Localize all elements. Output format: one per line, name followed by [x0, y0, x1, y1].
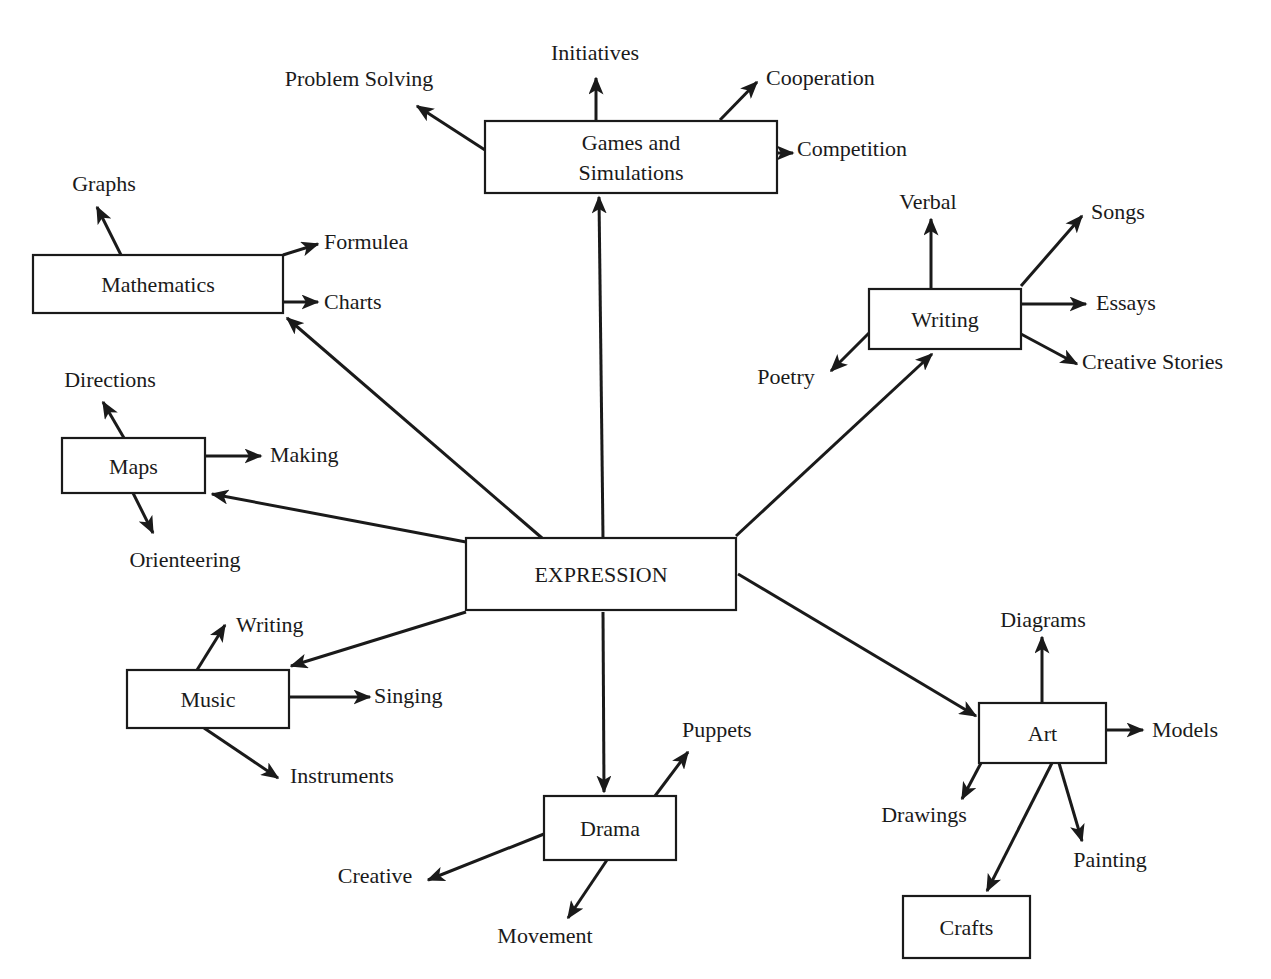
- arrow-connector: [599, 197, 603, 538]
- leaf-label: Orienteering: [129, 547, 240, 572]
- leaf-label: Graphs: [72, 171, 136, 196]
- arrow-connector: [603, 612, 604, 792]
- arrow-connector: [720, 82, 757, 120]
- arrow-connector: [655, 752, 688, 796]
- arrow-connector: [738, 574, 976, 716]
- leaf-label: Charts: [324, 289, 381, 314]
- center-label: EXPRESSION: [534, 562, 667, 587]
- leaf-label: Models: [1152, 717, 1218, 742]
- arrow-connector: [1021, 334, 1077, 364]
- leaf-label: Writing: [236, 612, 304, 637]
- leaf-label: Puppets: [682, 717, 752, 742]
- arrow-connector: [204, 728, 278, 778]
- arrow-connector: [212, 494, 466, 542]
- arrow-connector: [197, 625, 225, 670]
- node-games: Games andSimulations: [485, 121, 777, 193]
- concept-boxes: EXPRESSION Games andSimulationsMathemati…: [33, 121, 1106, 958]
- drama-label: Drama: [580, 816, 640, 841]
- mathematics-label: Mathematics: [101, 272, 215, 297]
- leaf-label: Initiatives: [551, 40, 639, 65]
- crafts-label: Crafts: [940, 915, 994, 940]
- arrow-connector: [287, 318, 542, 538]
- arrow-connector: [291, 612, 466, 666]
- leaf-label: Verbal: [899, 189, 956, 214]
- maps-label: Maps: [109, 454, 158, 479]
- leaf-label: Competition: [797, 136, 907, 161]
- leaf-label: Singing: [374, 683, 442, 708]
- writing-label: Writing: [911, 307, 979, 332]
- music-label: Music: [181, 687, 236, 712]
- expression-concept-map: EXPRESSION Games andSimulationsMathemati…: [0, 0, 1271, 979]
- node-music: Music: [127, 670, 289, 728]
- arrow-connector: [1059, 763, 1082, 841]
- leaf-label: Instruments: [290, 763, 394, 788]
- arrow-connector: [428, 834, 544, 880]
- node-writing: Writing: [869, 289, 1021, 349]
- arrow-connector: [97, 207, 121, 255]
- leaf-label: Movement: [497, 923, 592, 948]
- node-drama: Drama: [544, 796, 676, 860]
- arrow-connector: [103, 402, 124, 438]
- arrow-connector: [987, 763, 1052, 891]
- arrow-connector: [568, 860, 607, 918]
- games-label: Simulations: [578, 160, 683, 185]
- leaf-label: Songs: [1091, 199, 1145, 224]
- arrow-connector: [962, 763, 981, 799]
- leaf-label: Poetry: [757, 364, 814, 389]
- leaf-label: Painting: [1073, 847, 1146, 872]
- leaf-label: Diagrams: [1000, 607, 1086, 632]
- arrow-connector: [1021, 216, 1082, 286]
- leaf-label: Drawings: [881, 802, 967, 827]
- leaf-label: Directions: [64, 367, 156, 392]
- node-maps: Maps: [62, 438, 205, 493]
- leaf-label: Essays: [1096, 290, 1156, 315]
- diagram-svg: EXPRESSION Games andSimulationsMathemati…: [0, 0, 1271, 979]
- arrow-connector: [133, 493, 153, 533]
- connector-arrows: [97, 78, 1143, 918]
- node-art: Art: [979, 703, 1106, 763]
- leaf-label: Creative: [338, 863, 413, 888]
- leaf-label: Making: [270, 442, 338, 467]
- node-crafts: Crafts: [903, 896, 1030, 958]
- games-label: Games and: [582, 130, 680, 155]
- center-node: EXPRESSION: [466, 538, 736, 610]
- leaf-label: Cooperation: [766, 65, 875, 90]
- arrow-connector: [283, 244, 318, 255]
- arrow-connector: [831, 333, 869, 371]
- leaf-label: Creative Stories: [1082, 349, 1223, 374]
- node-mathematics: Mathematics: [33, 255, 283, 313]
- leaf-label: Formulea: [324, 229, 409, 254]
- art-label: Art: [1028, 721, 1057, 746]
- arrow-connector: [417, 106, 485, 150]
- leaf-label: Problem Solving: [285, 66, 434, 91]
